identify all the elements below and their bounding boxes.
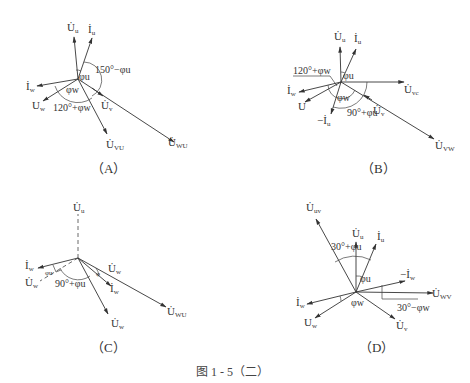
label-u-u: U̇u: [73, 201, 85, 215]
vector-u-uv: [316, 219, 356, 292]
panel-label-d: （D）: [359, 340, 394, 355]
angle-phi-w: φw: [66, 84, 80, 95]
label-i-w-left: İw: [25, 259, 35, 273]
angle-phi-u: φu: [79, 71, 90, 82]
panel-c: U̇u İw U̇w U̇w İw U̇w U̇WU φu φ 90°+φu （…: [25, 201, 187, 355]
label-u-vw: U̇VW: [435, 139, 455, 153]
label-u-wu: U̇WU: [167, 305, 187, 319]
angle-phi-u: φu: [360, 273, 371, 284]
vector-u-u: [340, 47, 341, 82]
angle-phi-u-small: φu: [45, 269, 53, 277]
angle-90-plus-phi-u: 90°+φu: [347, 107, 377, 118]
label-neg-i-w: −İw: [400, 268, 416, 282]
angle-arc-30-plus-phi-u: [335, 256, 371, 262]
label-i-u: İu: [377, 230, 385, 244]
vector-i-w: [299, 82, 341, 92]
panel-b: U̇u İu U̇vc U̇v U̇VW İw U −İu φu φw 120°…: [287, 30, 455, 176]
label-u-w: Uw: [304, 316, 318, 330]
label-i-u: İu: [88, 23, 96, 37]
vector-i-w: [307, 292, 356, 304]
label-u-w-dashed: U̇w: [25, 276, 39, 290]
panel-label-a: （A）: [91, 161, 126, 176]
label-u-wu: U̇WU: [168, 136, 188, 150]
panel-d: U̇uv U̇u İu −İw U̇WV U̇v İw Uw 30°+φu φu…: [296, 201, 452, 355]
vector-u-w: [315, 292, 356, 318]
vector-u-v: [364, 95, 372, 100]
phasor-diagrams: U̇u İu İw Uw U̇VU U̇v U̇WU φu φw 150°−φu…: [0, 0, 470, 383]
angle-120-plus-phi-w: 120°+φw: [293, 65, 331, 76]
angle-arc-phi-w: [340, 296, 341, 301]
panel-label-b: （B）: [361, 161, 396, 176]
label-u-w-lower: U̇w: [111, 317, 125, 331]
label-i-u: İu: [354, 32, 362, 46]
label-u-uv: U̇uv: [306, 201, 321, 215]
vector-u-wv: [356, 292, 433, 293]
panel-a: U̇u İu İw Uw U̇VU U̇v U̇WU φu φw 150°−φu…: [26, 21, 188, 176]
angle-150-minus-phi-u: 150°−φu: [95, 64, 130, 75]
panel-label-c: （C）: [91, 340, 126, 355]
vector-u-u: [74, 37, 78, 79]
label-u-u: U̇u: [352, 227, 364, 241]
angle-90-plus-phi-u: 90°+φu: [55, 278, 85, 289]
label-u-w: Uw: [32, 99, 46, 113]
label-neg-i-u: −İu: [317, 114, 331, 128]
angle-phi-w: φw: [351, 297, 365, 308]
label-u-vu: U̇VU: [106, 138, 124, 152]
angle-phi-w: φw: [337, 92, 351, 103]
vector-i-w-left: [38, 258, 78, 268]
label-u-u: U̇u: [67, 21, 79, 35]
label-i-w-right: İw: [110, 282, 120, 296]
angle-phi-u: φu: [343, 70, 354, 81]
label-i-w: İw: [296, 296, 306, 310]
label-i-w: İw: [26, 80, 36, 94]
figure-caption: 图 1 - 5（二）: [196, 365, 269, 379]
label-i-w: İw: [287, 84, 297, 98]
label-u: U: [298, 100, 306, 112]
label-u-w-upper: U̇w: [108, 262, 122, 276]
label-u-vc: U̇vc: [404, 83, 419, 97]
angle-30-plus-phi-u: 30°+φu: [331, 241, 361, 252]
angle-120-plus-phi-w: 120°+φw: [53, 102, 91, 113]
angle-30-minus-phi-w: 30°−φw: [397, 302, 430, 313]
label-u-v: U̇v: [396, 319, 408, 333]
angle-phi: φ: [96, 270, 100, 278]
label-u-wv: U̇WV: [432, 287, 452, 301]
label-u-u: U̇u: [334, 30, 346, 44]
